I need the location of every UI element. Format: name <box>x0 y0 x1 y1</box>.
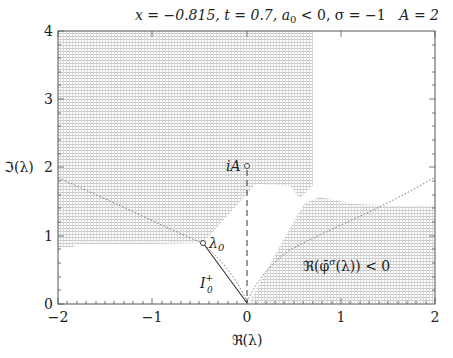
y-tick-label: 1 <box>44 228 53 244</box>
x-axis-label: ℜ(λ) <box>232 332 263 348</box>
shaded-region-upper <box>58 31 313 247</box>
y-tick-label: 3 <box>44 91 53 107</box>
region-label: ℜ(φ̄σ(λ)) < 0 <box>303 257 390 274</box>
x-tick-label: 1 <box>337 309 346 325</box>
y-tick-label: 0 <box>44 296 53 312</box>
chart-title-right: A = 2 <box>397 7 439 23</box>
point-lambda0-label: λ0 <box>208 235 225 253</box>
shaded-region-lower <box>249 197 435 303</box>
y-tick-label: 4 <box>44 23 53 39</box>
x-tick-label: 2 <box>431 309 440 325</box>
x-tick-label: −1 <box>142 309 163 325</box>
y-tick-label: 2 <box>44 159 53 175</box>
x-tick-label: 0 <box>243 309 252 325</box>
point-lambda0 <box>201 241 206 246</box>
contour-i0-plus-label: I+0 <box>199 273 213 295</box>
chart-title: x = −0.815, t = 0.7, a0 < 0, σ = −1 <box>135 7 386 25</box>
y-axis-label: ℑ(λ) <box>4 159 34 175</box>
chart: −2 −1 0 1 2 0 1 2 3 4 ℜ(λ) ℑ(λ) x = −0.8… <box>0 0 453 358</box>
point-ia-label: iA <box>226 158 241 174</box>
point-ia <box>245 164 250 169</box>
